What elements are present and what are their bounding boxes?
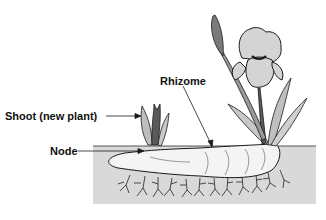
iris-bud: [211, 15, 223, 56]
new-shoot: [141, 104, 169, 146]
rhizome-leader-line: [183, 86, 211, 144]
shoot-arrowhead: [135, 114, 141, 119]
label-node: Node: [50, 145, 78, 157]
rhizome-diagram: Rhizome Shoot (new plant) Node: [0, 0, 326, 220]
iris-flower: [232, 28, 283, 88]
label-rhizome: Rhizome: [160, 75, 206, 87]
label-shoot: Shoot (new plant): [5, 110, 98, 122]
